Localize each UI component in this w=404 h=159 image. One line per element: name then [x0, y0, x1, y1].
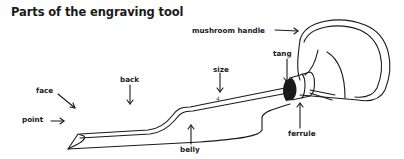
blade-back	[80, 87, 290, 134]
label-mushroom-handle: mushroom handle	[192, 27, 265, 34]
engraving-tool-illustration	[0, 0, 404, 159]
label-belly: belly	[180, 146, 200, 153]
label-size-mark: 4	[216, 96, 220, 102]
label-tang: tang	[273, 50, 292, 57]
label-ferrule: ferrule	[288, 130, 316, 137]
blade-face	[68, 134, 85, 149]
label-point: point	[22, 116, 43, 123]
blade-belly	[68, 104, 290, 149]
label-face: face	[36, 87, 53, 94]
label-size: size	[213, 66, 229, 73]
label-back: back	[120, 76, 139, 83]
